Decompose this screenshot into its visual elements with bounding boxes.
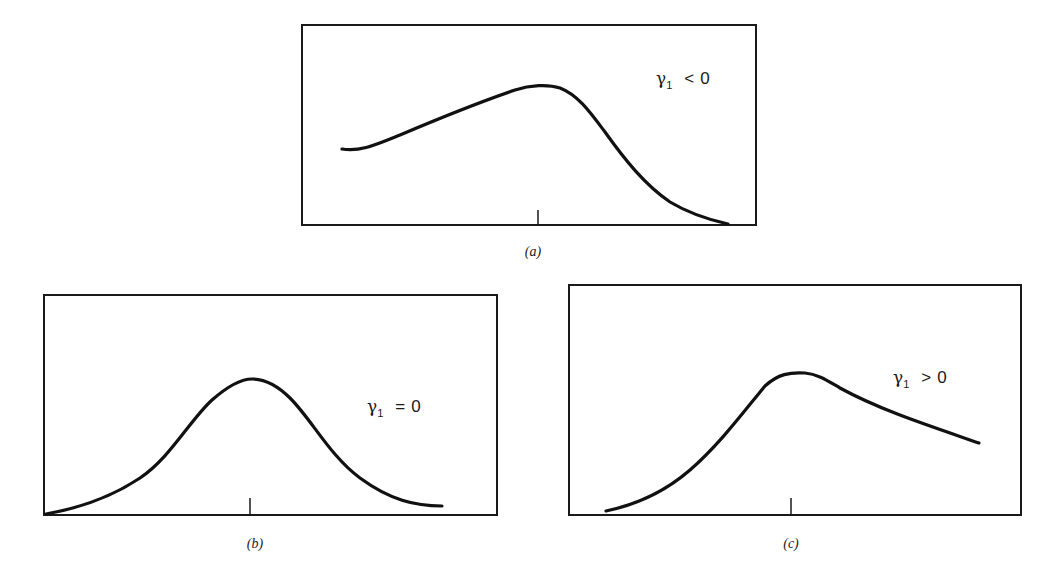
- comparison-value: 0: [937, 368, 946, 387]
- gamma-subscript: 1: [377, 407, 383, 419]
- panel-c: [569, 285, 1021, 515]
- gamma-subscript: 1: [666, 79, 672, 91]
- panel-c-frame: [569, 285, 1021, 515]
- comparison-operator: <: [684, 69, 694, 88]
- comparison-value: 0: [700, 69, 709, 88]
- panel-b-frame: [44, 295, 497, 515]
- panel-b-caption: (b): [247, 537, 263, 551]
- panel-c-curve: [606, 373, 979, 511]
- comparison-value: 0: [411, 397, 420, 416]
- gamma-symbol: γ: [367, 396, 377, 416]
- panel-b: [44, 295, 497, 515]
- panel-a-frame: [302, 25, 756, 225]
- comparison-operator: >: [921, 368, 931, 387]
- panel-b-skewness-label: γ1=0: [367, 398, 421, 415]
- gamma-symbol: γ: [656, 68, 666, 88]
- panel-a-curve: [342, 86, 728, 224]
- comparison-operator: =: [395, 397, 405, 416]
- skewness-figure: [0, 0, 1054, 568]
- gamma-subscript: 1: [903, 378, 909, 390]
- panel-c-caption: (c): [783, 537, 799, 551]
- panel-a: [302, 25, 756, 225]
- panel-a-caption: (a): [525, 245, 541, 259]
- panel-a-skewness-label: γ1<0: [656, 70, 710, 87]
- gamma-symbol: γ: [893, 367, 903, 387]
- panel-c-skewness-label: γ1>0: [893, 369, 947, 386]
